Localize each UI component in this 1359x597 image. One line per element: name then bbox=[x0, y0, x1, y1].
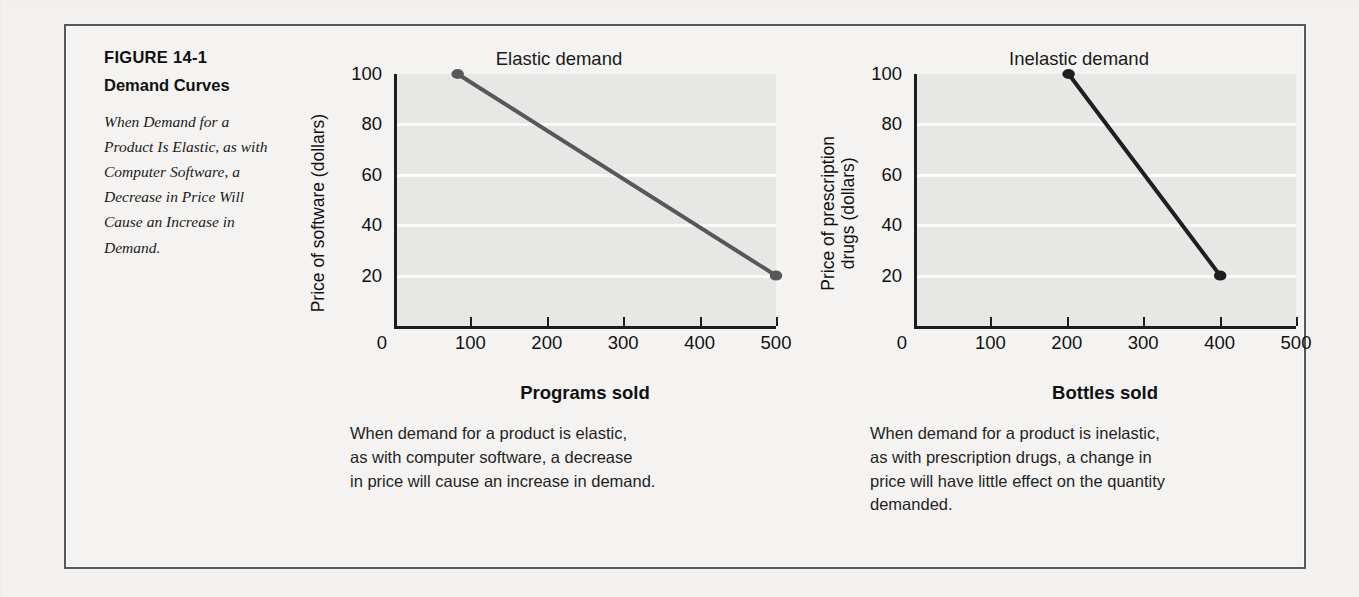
data-point-marker bbox=[1065, 71, 1073, 76]
y-axis-tick-label: 40 bbox=[881, 214, 902, 236]
x-axis-inelastic bbox=[914, 326, 1296, 329]
figure-caption-column: FIGURE 14-1 Demand Curves When Demand fo… bbox=[104, 48, 282, 260]
y-axis-ticks-elastic: 20406080100 bbox=[342, 74, 388, 352]
y-axis-label-text-inelastic: Price of prescriptiondrugs (dollars) bbox=[818, 136, 859, 291]
y-axis-ticks-inelastic: 20406080100 bbox=[862, 74, 908, 352]
demand-curve-svg-inelastic bbox=[917, 74, 1296, 326]
x-axis-tick-labels-inelastic: 0100200300400500 bbox=[914, 332, 1296, 358]
caption-line: as with computer software, a decrease bbox=[350, 446, 770, 470]
x-axis-tick-mark bbox=[990, 317, 992, 326]
x-axis-tick-mark bbox=[1296, 317, 1298, 326]
y-axis-tick-label: 60 bbox=[881, 164, 902, 186]
x-axis-tick-mark bbox=[700, 317, 702, 326]
x-axis-tick-label: 400 bbox=[684, 332, 715, 354]
y-axis-tick-label: 80 bbox=[361, 113, 382, 135]
caption-line: When demand for a product is elastic, bbox=[350, 422, 770, 446]
data-point-marker bbox=[454, 71, 462, 76]
caption-line: price will have little effect on the qua… bbox=[870, 470, 1290, 494]
demand-curve-line bbox=[1069, 74, 1221, 276]
chart-elastic-demand: Elastic demand Price of software (dollar… bbox=[298, 44, 776, 544]
caption-line: as with prescription drugs, a change in bbox=[870, 446, 1290, 470]
x-axis-tick-mark bbox=[1220, 317, 1222, 326]
demand-curve-svg-elastic bbox=[397, 74, 776, 326]
x-axis-tick-labels-elastic: 0100200300400500 bbox=[394, 332, 776, 358]
chart-caption-inelastic: When demand for a product is inelastic,a… bbox=[870, 422, 1290, 517]
y-axis-tick-label: 20 bbox=[881, 265, 902, 287]
y-axis-label-inelastic: Price of prescriptiondrugs (dollars) bbox=[816, 74, 860, 352]
x-axis-tick-label: 0 bbox=[377, 332, 387, 354]
y-axis-label-elastic: Price of software (dollars) bbox=[296, 74, 340, 352]
x-axis-tick-label: 300 bbox=[608, 332, 639, 354]
chart-title-elastic: Elastic demand bbox=[342, 44, 776, 74]
figure-description: When Demand for a Product Is Elastic, as… bbox=[104, 109, 282, 260]
y-axis-tick-label: 100 bbox=[351, 63, 382, 85]
x-axis-tick-label: 200 bbox=[531, 332, 562, 354]
x-axis-label-inelastic: Bottles sold bbox=[914, 352, 1296, 404]
y-axis-label-line: Price of prescription bbox=[818, 136, 838, 291]
y-axis-label-line: drugs (dollars) bbox=[838, 136, 858, 291]
x-axis-elastic bbox=[394, 326, 776, 329]
figure-number: FIGURE 14-1 bbox=[104, 48, 282, 67]
x-axis-tick-label: 200 bbox=[1051, 332, 1082, 354]
caption-line: demanded. bbox=[870, 493, 1290, 517]
chart-caption-elastic: When demand for a product is elastic,as … bbox=[350, 422, 770, 493]
x-axis-tick-label: 100 bbox=[975, 332, 1006, 354]
plot-wrap-inelastic: Price of prescriptiondrugs (dollars) 204… bbox=[862, 74, 1296, 352]
x-axis-tick-mark bbox=[1143, 317, 1145, 326]
plot-area-inelastic bbox=[914, 74, 1296, 326]
x-axis-tick-label: 300 bbox=[1128, 332, 1159, 354]
y-axis-label-text-elastic: Price of software (dollars) bbox=[308, 114, 328, 312]
x-axis-tick-label: 500 bbox=[1281, 332, 1312, 354]
demand-curve-line bbox=[458, 74, 776, 276]
x-axis-tick-label: 500 bbox=[761, 332, 792, 354]
caption-line: in price will cause an increase in deman… bbox=[350, 470, 770, 494]
x-axis-label-elastic: Programs sold bbox=[394, 352, 776, 404]
chart-inelastic-demand: Inelastic demand Price of prescriptiondr… bbox=[818, 44, 1296, 544]
plot-area-elastic bbox=[394, 74, 776, 326]
x-axis-tick-label: 100 bbox=[455, 332, 486, 354]
x-axis-tick-mark bbox=[470, 317, 472, 326]
y-axis-tick-label: 60 bbox=[361, 164, 382, 186]
x-axis-tick-mark bbox=[547, 317, 549, 326]
chart-title-inelastic: Inelastic demand bbox=[862, 44, 1296, 74]
y-axis-tick-label: 40 bbox=[361, 214, 382, 236]
data-point-marker bbox=[1216, 273, 1224, 278]
figure-frame: FIGURE 14-1 Demand Curves When Demand fo… bbox=[64, 24, 1306, 569]
caption-line: When demand for a product is inelastic, bbox=[870, 422, 1290, 446]
y-axis-tick-label: 20 bbox=[361, 265, 382, 287]
plot-wrap-elastic: Price of software (dollars) 20406080100 … bbox=[342, 74, 776, 352]
x-axis-tick-mark bbox=[776, 317, 778, 326]
x-axis-tick-label: 400 bbox=[1204, 332, 1235, 354]
x-axis-tick-label: 0 bbox=[897, 332, 907, 354]
figure-title: Demand Curves bbox=[104, 76, 282, 95]
y-axis-tick-label: 100 bbox=[871, 63, 902, 85]
charts-container: Elastic demand Price of software (dollar… bbox=[298, 44, 1294, 557]
x-axis-tick-mark bbox=[1067, 317, 1069, 326]
x-axis-tick-mark bbox=[623, 317, 625, 326]
y-axis-tick-label: 80 bbox=[881, 113, 902, 135]
data-point-marker bbox=[772, 273, 780, 278]
